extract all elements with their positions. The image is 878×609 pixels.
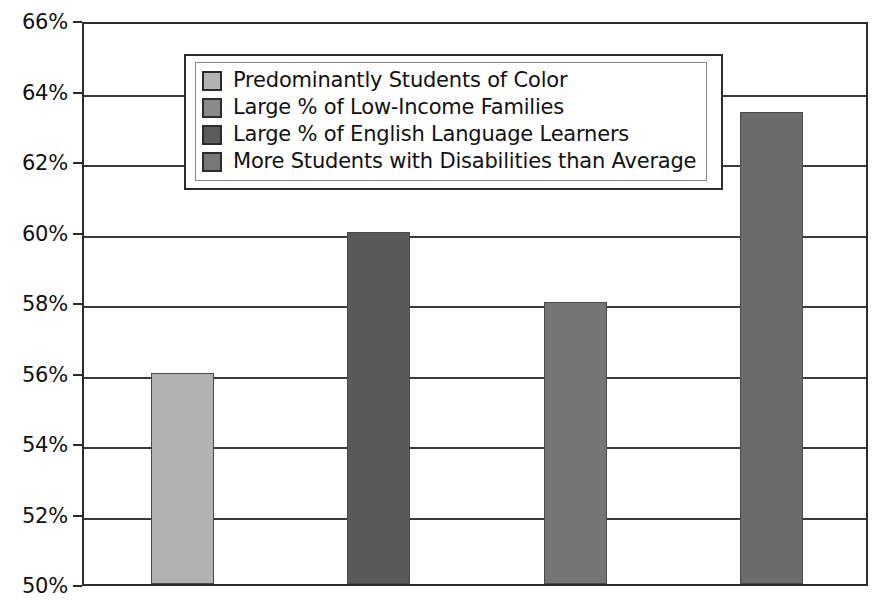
y-axis-tick-mark [73, 162, 82, 164]
legend-item-label: Predominantly Students of Color [233, 70, 567, 91]
legend-swatch-icon [202, 152, 222, 172]
legend-item-label: Large % of English Language Learners [233, 124, 629, 145]
chart-legend-inner: Predominantly Students of ColorLarge % o… [195, 62, 707, 181]
bar-chart: 66%64%62%60%58%56%54%52%50% Predominantl… [0, 0, 878, 609]
legend-item-label: Large % of Low-Income Families [233, 97, 564, 118]
y-axis-tick-label: 56% [0, 364, 68, 385]
legend-item: Large % of Low-Income Families [202, 94, 696, 121]
bar [151, 373, 214, 585]
y-axis-tick-mark [73, 585, 82, 587]
chart-legend: Predominantly Students of ColorLarge % o… [184, 54, 723, 190]
legend-item: Large % of English Language Learners [202, 121, 696, 148]
bar [740, 112, 803, 584]
y-axis-tick-label: 60% [0, 223, 68, 244]
y-axis-tick-mark [73, 374, 82, 376]
y-axis-tick-mark [73, 515, 82, 517]
y-axis-tick-label: 52% [0, 505, 68, 526]
legend-item: More Students with Disabilities than Ave… [202, 148, 696, 175]
y-axis-tick-mark [73, 444, 82, 446]
plot-area: Predominantly Students of ColorLarge % o… [82, 22, 868, 586]
legend-swatch-icon [202, 125, 222, 145]
y-axis-tick-label: 50% [0, 576, 68, 597]
y-axis-tick-label: 66% [0, 12, 68, 33]
y-axis-tick-mark [73, 303, 82, 305]
y-axis-tick-mark [73, 92, 82, 94]
legend-item-label: More Students with Disabilities than Ave… [233, 151, 696, 172]
y-axis-tick-label: 58% [0, 294, 68, 315]
legend-item: Predominantly Students of Color [202, 67, 696, 94]
y-axis-tick-label: 54% [0, 435, 68, 456]
bar [347, 232, 410, 585]
legend-swatch-icon [202, 71, 222, 91]
y-axis-tick-label: 62% [0, 153, 68, 174]
y-axis-tick-label: 64% [0, 82, 68, 103]
bar [544, 302, 607, 584]
legend-swatch-icon [202, 98, 222, 118]
y-axis-tick-mark [73, 21, 82, 23]
y-axis-tick-mark [73, 233, 82, 235]
